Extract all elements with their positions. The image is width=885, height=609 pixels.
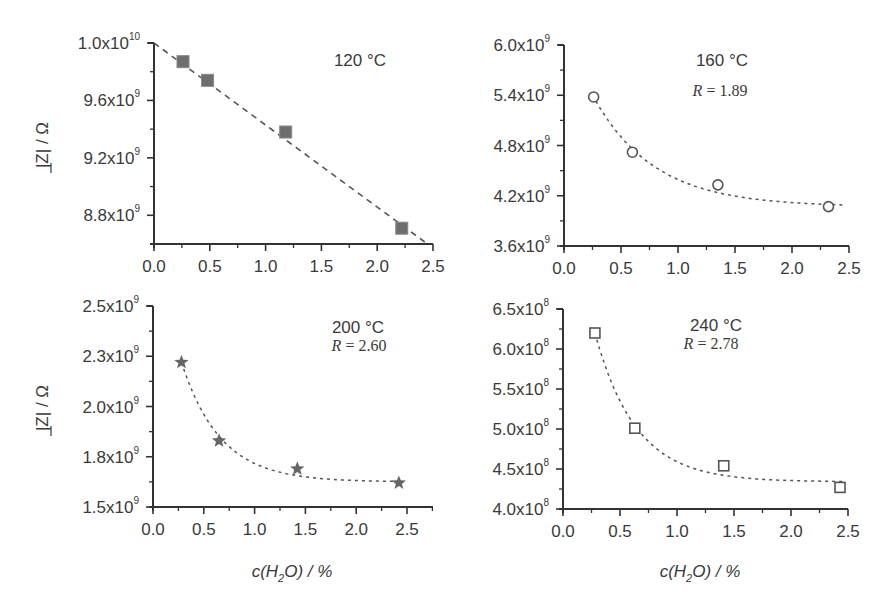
data-point — [392, 475, 406, 489]
data-point — [590, 328, 600, 338]
y-axis-title-text: |Z| / Ω — [33, 385, 52, 431]
data-point — [630, 423, 640, 433]
y-tick-label: 9.2x109 — [83, 146, 140, 168]
data-point — [835, 482, 845, 492]
y-tick-label: 1.5x109 — [82, 495, 139, 517]
data-point — [719, 461, 729, 471]
y-tick-label: 1.0x1010 — [78, 31, 141, 53]
y-tick-label: 4.2x109 — [493, 184, 550, 206]
y-tick-label: 4.0x108 — [492, 497, 549, 519]
x-tick-label: 2.0 — [780, 259, 804, 278]
data-point — [280, 126, 292, 138]
linear-fit-line — [154, 43, 427, 244]
x-tick-label: 0.0 — [551, 522, 575, 541]
y-axis-title-top: |Z| / Ω — [33, 122, 52, 168]
data-point — [174, 355, 188, 369]
x-tick-label: 2.5 — [836, 522, 860, 541]
x-tick-label: 2.5 — [421, 257, 445, 276]
x-tick-label: 2.5 — [395, 520, 419, 539]
r-value-annotation: R = 2.78 — [683, 335, 739, 352]
exponential-fit-curve — [595, 333, 842, 481]
y-axis-title-text: |Z| / Ω — [33, 122, 52, 168]
x-tick-label: 1.5 — [294, 520, 318, 539]
temperature-label: 160 °C — [696, 51, 748, 70]
x-tick-label: 2.5 — [837, 259, 861, 278]
figure: 0.00.51.01.52.02.51.0x10109.6x1099.2x109… — [0, 0, 885, 609]
r-value-annotation: R = 2.60 — [331, 337, 387, 354]
x-tick-label: 2.0 — [344, 520, 368, 539]
y-tick-label: 2.0x109 — [82, 395, 139, 417]
x-tick-label: 1.0 — [254, 257, 278, 276]
y-tick-label: 4.5x108 — [492, 457, 549, 479]
data-point — [713, 180, 723, 190]
data-point — [396, 222, 408, 234]
panel-240c: 0.00.51.01.52.02.56.5x1086.0x1085.5x1085… — [492, 297, 859, 541]
y-tick-label: 8.8x109 — [83, 203, 140, 225]
chart-canvas: 0.00.51.01.52.02.51.0x10109.6x1099.2x109… — [0, 0, 885, 609]
data-point — [177, 56, 189, 68]
x-tick-label: 0.0 — [141, 520, 165, 539]
y-tick-label: 5.5x108 — [492, 377, 549, 399]
x-axis-title-left: c(H2O) / % — [252, 562, 333, 584]
x-tick-label: 2.0 — [779, 522, 803, 541]
x-tick-label: 0.5 — [609, 259, 633, 278]
exponential-fit-curve — [181, 362, 399, 481]
temperature-label: 200 °C — [332, 318, 384, 337]
data-point — [589, 92, 599, 102]
data-point — [823, 202, 833, 212]
r-value-annotation: R = 1.89 — [692, 82, 748, 99]
y-axis-title-bottom: |Z| / Ω — [33, 385, 52, 431]
x-tick-label: 0.5 — [608, 522, 632, 541]
y-tick-label: 5.4x109 — [493, 83, 550, 105]
y-tick-label: 2.5x109 — [82, 294, 139, 316]
panel-160c: 0.00.51.01.52.02.56.0x1095.4x1094.8x1094… — [493, 33, 860, 278]
y-tick-label: 6.5x108 — [492, 297, 549, 319]
data-point — [627, 147, 637, 157]
x-tick-label: 2.0 — [365, 257, 389, 276]
x-tick-label: 1.5 — [723, 259, 747, 278]
x-axis-title-right: c(H2O) / % — [660, 562, 741, 584]
y-tick-label: 4.8x109 — [493, 134, 550, 156]
panel-120c: 0.00.51.01.52.02.51.0x10109.6x1099.2x109… — [78, 31, 445, 276]
y-tick-label: 1.8x109 — [82, 445, 139, 467]
x-tick-label: 0.0 — [142, 257, 166, 276]
x-tick-label: 1.0 — [665, 522, 689, 541]
data-point — [290, 461, 304, 475]
y-tick-label: 6.0x109 — [493, 33, 550, 55]
temperature-label: 240 °C — [690, 316, 742, 335]
x-tick-label: 0.5 — [192, 520, 216, 539]
x-tick-label: 0.5 — [198, 257, 222, 276]
y-tick-label: 6.0x108 — [492, 337, 549, 359]
x-tick-label: 1.5 — [310, 257, 334, 276]
temperature-label: 120 °C — [334, 51, 386, 70]
panel-200c: 0.00.51.01.52.02.52.5x1092.3x1092.0x1091… — [82, 294, 433, 539]
x-tick-label: 1.0 — [243, 520, 267, 539]
data-point — [212, 433, 226, 447]
x-tick-label: 1.0 — [666, 259, 690, 278]
data-point — [202, 74, 214, 86]
x-tick-label: 0.0 — [552, 259, 576, 278]
y-tick-label: 9.6x109 — [83, 88, 140, 110]
y-tick-label: 5.0x108 — [492, 417, 549, 439]
x-tick-label: 1.5 — [722, 522, 746, 541]
y-tick-label: 2.3x109 — [82, 344, 139, 366]
y-tick-label: 3.6x109 — [493, 234, 550, 256]
